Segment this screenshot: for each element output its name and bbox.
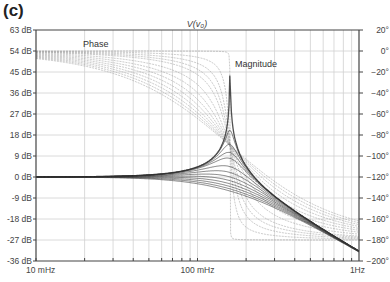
- y-right-tick-label: −60°: [371, 109, 389, 119]
- bode-plot: 63 dB54 dB45 dB36 dB27 dB18 dB9 dB0 dB-9…: [0, 0, 390, 282]
- x-tick-label: 100 mHz: [180, 265, 214, 275]
- y-left-tick-label: -9 dB: [12, 193, 33, 203]
- y-right-tick-label: −160°: [366, 214, 389, 224]
- x-tick-label: 1Hz: [350, 265, 365, 275]
- y-left-tick-label: 45 dB: [10, 67, 33, 77]
- y-right-tick-label: −100°: [366, 151, 389, 161]
- y-right-tick-label: −120°: [366, 172, 389, 182]
- y-left-tick-label: 9 dB: [15, 151, 33, 161]
- y-right-tick-label: 0°: [381, 46, 389, 56]
- y-left-tick-label: 27 dB: [10, 109, 33, 119]
- y-left-tick-label: 0 dB: [15, 172, 33, 182]
- magnitude-annotation: Magnitude: [235, 59, 277, 69]
- y-left-tick-label: -27 dB: [7, 235, 32, 245]
- phase-annotation: Phase: [83, 39, 109, 49]
- y-left-tick-label: 36 dB: [10, 88, 33, 98]
- x-tick-label: 10 mHz: [26, 265, 55, 275]
- y-right-tick-label: 20°: [376, 25, 389, 35]
- y-right-tick-label: −140°: [366, 193, 389, 203]
- y-left-tick-label: -18 dB: [7, 214, 32, 224]
- y-right-tick-label: −40°: [371, 88, 389, 98]
- chart-title: V(v₀): [187, 19, 207, 29]
- y-left-tick-label: 18 dB: [10, 130, 33, 140]
- y-left-tick-label: 63 dB: [10, 25, 33, 35]
- y-right-tick-label: −180°: [366, 235, 389, 245]
- y-right-tick-label: −200°: [366, 256, 389, 266]
- y-left-tick-label: 54 dB: [10, 46, 33, 56]
- y-right-tick-label: −20°: [371, 67, 389, 77]
- y-right-tick-label: −80°: [371, 130, 389, 140]
